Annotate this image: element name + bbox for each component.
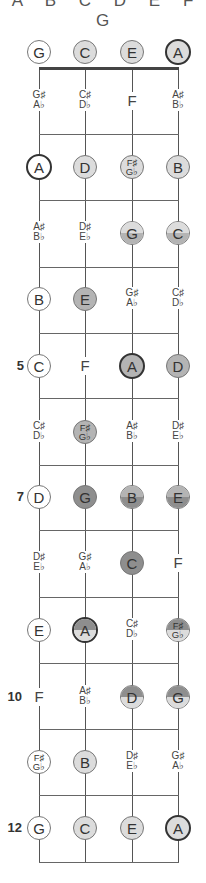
note-label: F♯G♭ <box>126 158 138 176</box>
note-label-flat: D♭ <box>163 298 193 308</box>
note-text: F <box>163 554 193 572</box>
note-text: C♯D♭ <box>70 89 100 111</box>
note-label: F♯G♭ <box>33 753 45 771</box>
fret-line <box>39 663 179 664</box>
note-label: A <box>34 159 44 176</box>
note-label-flat: D♭ <box>117 629 147 639</box>
note-marker: E <box>73 287 97 311</box>
note-label-flat: G♭ <box>126 167 138 176</box>
note-text: A♯B♭ <box>163 89 193 111</box>
fret-line <box>39 597 179 598</box>
note-label-flat: D♭ <box>24 431 54 441</box>
note-label-flat: B♭ <box>117 431 147 441</box>
note-label-flat: A♭ <box>70 562 100 572</box>
note-text: F <box>117 92 147 110</box>
note-label: F♯G♭ <box>172 621 184 639</box>
note-marker: C <box>73 40 97 64</box>
note-label-flat: A♭ <box>163 761 193 771</box>
note-marker: D <box>166 354 190 378</box>
note-label: A <box>173 44 183 61</box>
note-label-flat: B♭ <box>70 696 100 706</box>
fretboard-diagram: 571012GCEAG♯A♭C♯D♭FA♯B♭ADF♯G♭BA♯B♭D♯E♭GC… <box>0 0 206 883</box>
note-marker: G <box>27 816 51 840</box>
note-label: G <box>33 44 45 61</box>
note-marker: C <box>120 551 144 575</box>
fret-line <box>39 530 179 531</box>
note-label: D <box>127 689 138 706</box>
note-marker: D <box>73 155 97 179</box>
note-label: B <box>127 489 137 506</box>
note-text: A♯B♭ <box>117 420 147 442</box>
note-label: C <box>80 820 91 837</box>
note-label: A <box>127 358 137 375</box>
fret-line <box>39 862 179 863</box>
note-marker: G <box>120 221 144 245</box>
note-label-flat: G♭ <box>33 762 45 771</box>
fret-line <box>39 729 179 730</box>
note-text: D♯E♭ <box>24 551 54 573</box>
note-label: C <box>173 225 184 242</box>
note-label: E <box>173 489 183 506</box>
note-marker: E <box>120 816 144 840</box>
note-label: D <box>34 489 45 506</box>
nut-line <box>39 67 179 70</box>
note-text: C♯D♭ <box>24 420 54 442</box>
note-label-flat: E♭ <box>24 562 54 572</box>
note-label-flat: E♭ <box>117 761 147 771</box>
fret-line <box>39 134 179 135</box>
note-marker: A <box>72 617 98 643</box>
note-marker: G <box>73 485 97 509</box>
note-text: G♯A♭ <box>70 551 100 573</box>
fret-line <box>39 465 179 466</box>
note-label: B <box>80 754 90 771</box>
note-marker: F♯G♭ <box>73 420 97 444</box>
note-text: A♯B♭ <box>24 221 54 243</box>
note-label: F♯G♭ <box>79 423 91 441</box>
note-label: C <box>34 358 45 375</box>
note-text: C♯D♭ <box>117 618 147 640</box>
fret-line <box>39 333 179 334</box>
fret-line <box>39 398 179 399</box>
note-label-flat: G♭ <box>172 630 184 639</box>
note-marker: F♯G♭ <box>166 618 190 642</box>
fret-line <box>39 795 179 796</box>
note-text: D♯E♭ <box>70 221 100 243</box>
note-marker: E <box>120 40 144 64</box>
note-label: E <box>80 291 90 308</box>
note-label: C <box>80 44 91 61</box>
note-marker: D <box>27 485 51 509</box>
fret-number: 7 <box>6 489 24 504</box>
note-marker: F♯G♭ <box>27 750 51 774</box>
note-marker: G <box>166 685 190 709</box>
note-text: D♯E♭ <box>163 420 193 442</box>
note-marker: E <box>27 618 51 642</box>
note-label: E <box>127 820 137 837</box>
note-text: F <box>70 357 100 375</box>
fret-line <box>39 267 179 268</box>
note-label-flat: G♭ <box>79 432 91 441</box>
note-marker: F♯G♭ <box>120 155 144 179</box>
note-label: G <box>126 225 138 242</box>
note-label-flat: B♭ <box>163 100 193 110</box>
fret-number: 10 <box>4 689 22 704</box>
note-text: C♯D♭ <box>163 287 193 309</box>
note-label: B <box>173 159 183 176</box>
note-label: G <box>33 820 45 837</box>
note-label: D <box>173 358 184 375</box>
note-text: D♯E♭ <box>117 750 147 772</box>
note-text: F <box>24 688 54 706</box>
note-marker: A <box>165 39 191 65</box>
note-label: G <box>172 689 184 706</box>
note-marker: D <box>120 685 144 709</box>
note-label-flat: D♭ <box>70 100 100 110</box>
fret-number: 12 <box>4 820 22 835</box>
note-marker: B <box>120 485 144 509</box>
note-label-flat: E♭ <box>163 431 193 441</box>
note-label-flat: E♭ <box>70 232 100 242</box>
note-label: A <box>173 820 183 837</box>
note-marker: B <box>27 287 51 311</box>
note-marker: A <box>165 815 191 841</box>
note-marker: B <box>166 155 190 179</box>
fret-line <box>39 200 179 201</box>
note-marker: A <box>119 353 145 379</box>
